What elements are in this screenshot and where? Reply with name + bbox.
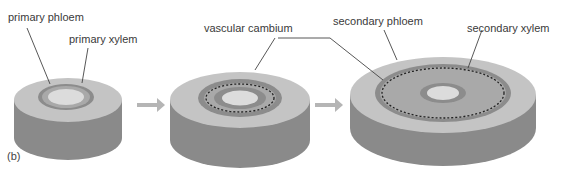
stage-3-stem-disc xyxy=(350,57,536,166)
label-primary-xylem: primary xylem xyxy=(69,33,137,45)
stage-2-stem-disc xyxy=(170,72,310,168)
stage-1-stem-disc xyxy=(14,78,122,160)
label-secondary-xylem: secondary xylem xyxy=(467,22,550,34)
stem-growth-diagram: primary phloem primary xylem vascular ca… xyxy=(0,0,561,177)
arrow-icon xyxy=(137,98,165,112)
panel-label: (b) xyxy=(7,150,20,162)
label-secondary-phloem: secondary phloem xyxy=(333,15,423,27)
label-primary-phloem: primary phloem xyxy=(8,11,84,23)
arrow-icon xyxy=(315,98,343,112)
label-vascular-cambium: vascular cambium xyxy=(204,22,293,34)
